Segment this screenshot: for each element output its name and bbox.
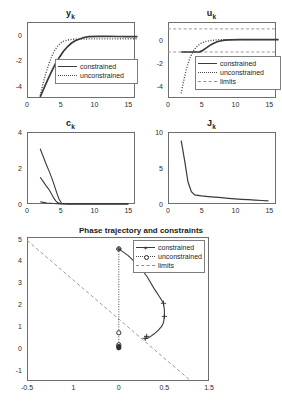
legend-row-unconstrained: unconstrained — [198, 68, 277, 77]
ytick-Jk-1: 5 — [147, 165, 163, 172]
line-sample-dotted-icon — [58, 71, 77, 80]
ytick-phase-2: 2 — [8, 301, 22, 308]
xtick-yk-1: 5 — [59, 101, 63, 108]
line-sample-plus-marker-icon: + — [136, 243, 155, 252]
subplot-yk: yk 0 -2 -4 0 5 10 15 constrained unconst… — [0, 8, 141, 116]
ytick-yk-2: -4 — [8, 82, 22, 89]
legend-row-limits: limits — [198, 77, 277, 86]
legend-uk: constrained unconstrained limits — [195, 56, 281, 90]
xtick-phase-2: 0.5 — [160, 384, 170, 391]
xtick-Jk-3: 15 — [265, 207, 273, 214]
legend-phase: + constrained unconstrained limits — [133, 240, 205, 273]
legend-row-unconstrained: unconstrained — [58, 71, 134, 80]
legend-row-limits: limits — [136, 261, 201, 270]
ytick-ck-0: 4 — [8, 129, 22, 136]
line-sample-solid-icon — [58, 62, 77, 71]
legend-row-constrained: constrained — [198, 59, 277, 68]
xtick-ck-1: 5 — [59, 207, 63, 214]
subplot-ck: ck 4 2 0 0 5 10 15 — [0, 118, 141, 222]
xtick-phase-0: -0.5 — [21, 384, 33, 391]
xtick-Jk-1: 5 — [200, 207, 204, 214]
line-sample-circle-marker-icon — [136, 252, 155, 261]
legend-row-constrained: constrained — [58, 62, 134, 71]
ytick-Jk-2: 0 — [147, 201, 163, 208]
line-sample-solid-icon — [198, 59, 217, 68]
xtick-uk-2: 10 — [232, 101, 240, 108]
xtick-yk-2: 10 — [91, 101, 99, 108]
ytick-Jk-0: 10 — [147, 129, 163, 136]
xtick-ck-3: 15 — [124, 207, 132, 214]
ytick-phase-3: 3 — [8, 279, 22, 286]
ytick-yk-1: -2 — [8, 57, 22, 64]
legend-label-constrained: constrained — [80, 62, 116, 71]
xtick-phase-1: 0 — [117, 384, 121, 391]
xtick-Jk-0: 0 — [166, 207, 170, 214]
ytick-phase-5: 5 — [8, 235, 22, 242]
xtick-phase-3: 1 — [71, 384, 75, 391]
series-cost-Jk — [181, 141, 268, 201]
subplot-Jk: Jk 10 5 0 0 5 10 15 — [141, 118, 282, 222]
ytick-phase-4: 4 — [8, 257, 22, 264]
subplot-uk: uk 0 -2 -4 0 5 10 15 constrained — [141, 8, 282, 116]
legend-label-unconstrained: unconstrained — [158, 252, 202, 261]
legend-label-limits: limits — [220, 77, 236, 86]
ytick-ck-1: 2 — [8, 165, 22, 172]
xtick-uk-0: 0 — [166, 101, 170, 108]
ytick-uk-2: -4 — [149, 83, 163, 90]
xtick-Jk-2: 10 — [232, 207, 240, 214]
xtick-ck-2: 10 — [91, 207, 99, 214]
xtick-phase-4: 1.5 — [204, 384, 214, 391]
legend-label-limits: limits — [158, 261, 174, 270]
xtick-yk-0: 0 — [25, 101, 29, 108]
ytick-uk-0: 0 — [149, 37, 163, 44]
xtick-uk-3: 15 — [265, 101, 273, 108]
xtick-yk-3: 15 — [124, 101, 132, 108]
legend-label-unconstrained: unconstrained — [80, 71, 124, 80]
series-unconstrained-phase — [117, 247, 121, 350]
xtick-ck-0: 0 — [25, 207, 29, 214]
ytick-phase-1: 1 — [8, 322, 22, 329]
legend-label-constrained: constrained — [158, 243, 194, 252]
series-ck — [40, 149, 128, 204]
matlab-figure: yk 0 -2 -4 0 5 10 15 constrained unconst… — [0, 0, 282, 418]
subplot-phase: Phase trajectory and constraints — [0, 226, 282, 418]
xtick-uk-1: 5 — [200, 101, 204, 108]
ytick-yk-0: 0 — [8, 32, 22, 39]
legend-row-constrained: + constrained — [136, 243, 201, 252]
ytick-uk-1: -2 — [149, 60, 163, 67]
legend-label-constrained: constrained — [220, 59, 256, 68]
legend-row-unconstrained: unconstrained — [136, 252, 201, 261]
ytick-phase-0: 0 — [8, 344, 22, 351]
legend-label-unconstrained: unconstrained — [220, 68, 264, 77]
line-sample-dashed-icon — [136, 261, 155, 270]
line-sample-dashed-icon — [198, 77, 217, 86]
ytick-phase-neg1: -1 — [8, 366, 22, 373]
ytick-ck-2: 0 — [8, 201, 22, 208]
line-sample-dotted-icon — [198, 68, 217, 77]
series-constrained-uk — [181, 40, 278, 52]
legend-yk: constrained unconstrained — [55, 59, 138, 84]
